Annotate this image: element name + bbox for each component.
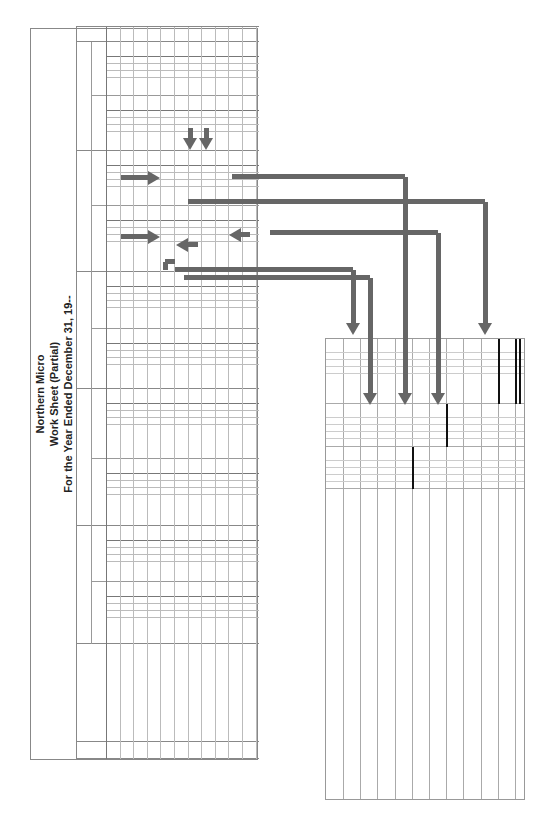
digit-rule: [106, 561, 259, 562]
sheet-title: Work Sheet (Partial): [47, 29, 61, 759]
debit-credit-divider: [91, 581, 259, 582]
section-divider: [76, 26, 259, 27]
cogs-digit-rule: [326, 460, 524, 461]
row-rule: [256, 27, 257, 759]
row-rule: [228, 27, 229, 759]
digit-rule: [106, 610, 259, 611]
digit-rule: [106, 165, 259, 166]
figure-frame: Northern Micro Work Sheet (Partial) For …: [0, 0, 553, 833]
row-rule: [215, 27, 216, 759]
header-credit: [91, 151, 106, 206]
digit-rule: [106, 540, 259, 541]
cogs-row-rule: [429, 339, 430, 799]
digit-rule: [106, 77, 259, 78]
digit-rule: [106, 56, 259, 57]
digit-rule: [106, 110, 259, 111]
digit-rule: [106, 473, 259, 474]
cogs-row-rule: [377, 339, 378, 799]
sheet-period: For the Year Ended December 31, 19--: [61, 29, 75, 759]
cogs-total-rule: [515, 339, 517, 404]
cogs-digit-rule: [326, 417, 524, 418]
header-rule: [106, 27, 107, 759]
digit-rule: [106, 547, 259, 548]
work-sheet: Northern Micro Work Sheet (Partial) For …: [30, 28, 258, 760]
arrow-line: [121, 176, 150, 181]
cogs-row-rule: [360, 339, 361, 799]
arrow-line: [436, 233, 441, 393]
header-adjustments: [76, 389, 91, 526]
cogs-row-rule: [498, 339, 499, 799]
cogs-row-rule: [412, 339, 413, 799]
arrow-line: [204, 128, 209, 138]
digit-rule: [106, 487, 259, 488]
cogs-row-rule: [515, 339, 516, 799]
cogs-row-rule: [395, 339, 396, 799]
cogs-total-rule: [412, 447, 414, 489]
digit-rule: [106, 293, 259, 294]
cogs-digit-rule: [326, 424, 524, 425]
header-debit: [91, 459, 106, 526]
cogs-column-divider: [326, 488, 524, 489]
row-rule: [160, 27, 161, 759]
arrow-line: [121, 235, 150, 240]
arrow-line: [184, 276, 370, 281]
debit-credit-divider: [91, 205, 259, 206]
cogs-total-rule: [498, 339, 500, 404]
cost-of-goods-sold-panel: [325, 338, 525, 800]
header-debit: [91, 206, 106, 272]
digit-rule: [106, 480, 259, 481]
cogs-total-rule: [446, 404, 448, 447]
cogs-digit-rule: [326, 373, 524, 374]
debit-credit-divider: [91, 95, 259, 96]
header-balance-sheet: [76, 42, 91, 151]
digit-rule: [106, 617, 259, 618]
arrow-line: [232, 175, 405, 180]
arrowhead-icon: [398, 393, 412, 405]
company-name: Northern Micro: [33, 29, 47, 759]
digit-rule: [106, 220, 259, 221]
cogs-row-rule: [463, 339, 464, 799]
arrowhead-icon: [148, 230, 160, 244]
work-sheet-heading: Northern Micro Work Sheet (Partial) For …: [31, 29, 78, 759]
arrow-line: [175, 268, 353, 273]
digit-rule: [106, 172, 259, 173]
digit-rule: [106, 364, 259, 365]
digit-rule: [106, 357, 259, 358]
header-adjusted-trial-balance: [76, 272, 91, 389]
digit-rule: [106, 63, 259, 64]
cogs-row-rule: [343, 339, 344, 799]
arrow-line: [188, 200, 485, 205]
digit-rule: [106, 350, 259, 351]
arrowhead-icon: [478, 323, 492, 335]
header-debit: [91, 96, 106, 151]
header-account-title: [76, 644, 106, 742]
cogs-column-divider: [326, 403, 524, 404]
digit-rule: [106, 117, 259, 118]
arrow-line: [403, 177, 408, 393]
digit-rule: [106, 131, 259, 132]
header-income-statement: [76, 151, 91, 272]
digit-rule: [106, 186, 259, 187]
header-credit: [91, 42, 106, 96]
arrow-line: [483, 202, 488, 323]
debit-credit-divider: [91, 328, 259, 329]
arrowhead-icon: [431, 393, 445, 405]
header-credit: [91, 389, 106, 459]
arrowhead-icon: [148, 171, 160, 185]
row-rule: [242, 27, 243, 759]
digit-rule: [106, 417, 259, 418]
cogs-digit-rule: [326, 359, 524, 360]
digit-rule: [106, 343, 259, 344]
header-credit: [91, 272, 106, 329]
header-debit: [91, 329, 106, 389]
digit-rule: [106, 70, 259, 71]
cogs-row-rule: [481, 339, 482, 799]
debit-credit-divider: [91, 458, 259, 459]
digit-rule: [106, 307, 259, 308]
arrowhead-icon: [176, 238, 188, 252]
digit-rule: [106, 286, 259, 287]
cogs-digit-rule: [326, 352, 524, 353]
row-rule: [147, 27, 148, 759]
cogs-digit-rule: [326, 366, 524, 367]
digit-rule: [106, 603, 259, 604]
